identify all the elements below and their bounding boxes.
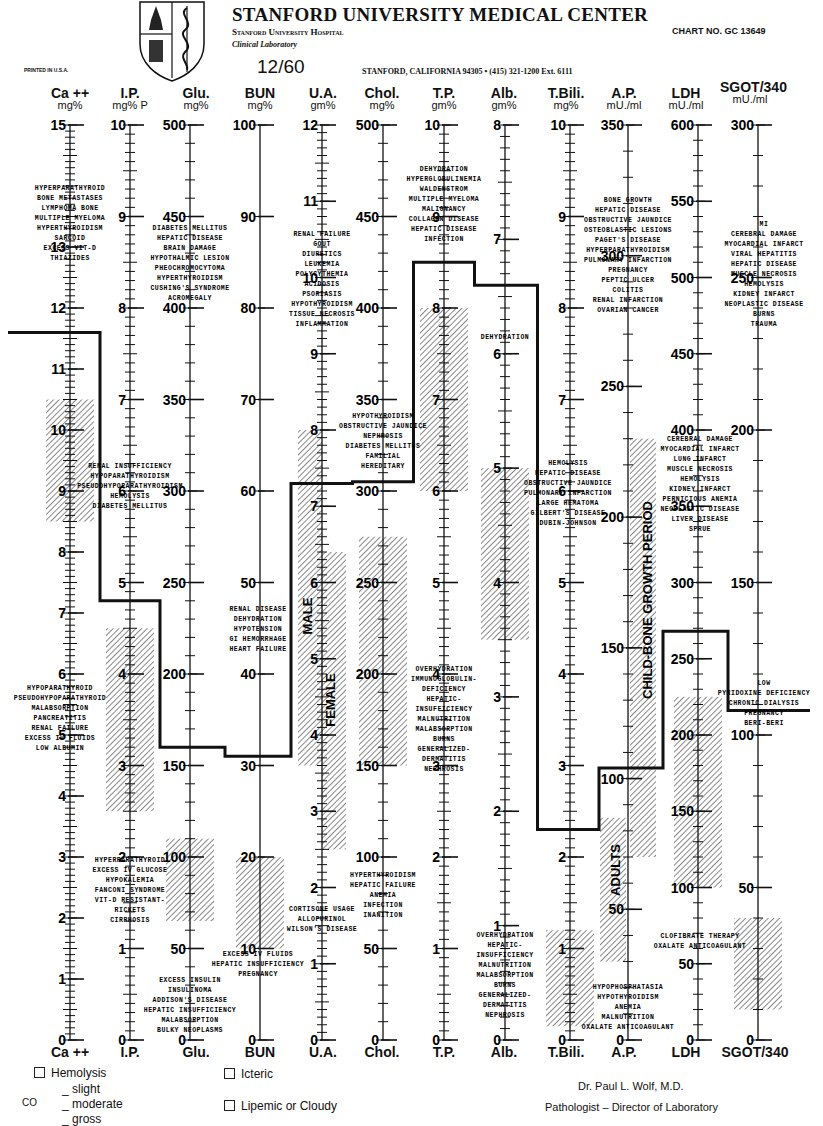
svg-text:10: 10: [424, 117, 440, 133]
svg-text:BULKY NEOPLASMS: BULKY NEOPLASMS: [157, 1027, 223, 1034]
icteric-checkbox[interactable]: Icteric: [224, 1067, 273, 1081]
svg-text:8: 8: [493, 117, 501, 133]
svg-text:BERI-BERI: BERI-BERI: [744, 720, 784, 727]
svg-text:450: 450: [356, 209, 380, 225]
svg-text:HYPERTHYROIDISM: HYPERTHYROIDISM: [157, 275, 223, 282]
checkbox-icon: [224, 1068, 235, 1079]
svg-text:8: 8: [118, 300, 126, 316]
svg-text:MALNUTRITION: MALNUTRITION: [479, 962, 532, 969]
male-label: MALE: [300, 597, 315, 634]
svg-text:FAMILIAL: FAMILIAL: [365, 453, 400, 460]
svg-text:150: 150: [601, 640, 625, 656]
lipemic-checkbox[interactable]: Lipemic or Cloudy: [224, 1099, 337, 1113]
footer-label-tp: T.P.: [414, 1045, 474, 1059]
svg-text:80: 80: [240, 300, 256, 316]
svg-text:1: 1: [432, 941, 440, 957]
svg-text:7: 7: [118, 392, 126, 408]
svg-text:LUNG INFARCT: LUNG INFARCT: [674, 456, 727, 463]
hemolysis-slight: _ slight: [62, 1082, 100, 1096]
svg-text:BONE GROWTH: BONE GROWTH: [604, 197, 652, 204]
svg-text:7: 7: [432, 392, 440, 408]
svg-text:RENAL FAILURE: RENAL FAILURE: [31, 725, 88, 732]
svg-text:50: 50: [678, 956, 694, 972]
svg-text:5: 5: [558, 575, 566, 591]
svg-text:COLLAGEN DISEASE: COLLAGEN DISEASE: [409, 216, 479, 223]
svg-text:200: 200: [731, 422, 755, 438]
svg-text:200: 200: [163, 666, 187, 682]
footer-label-chol: Chol.: [352, 1045, 412, 1059]
footer-label-ldh: LDH: [656, 1045, 716, 1059]
svg-text:3: 3: [493, 689, 501, 705]
svg-text:MI: MI: [760, 221, 769, 228]
svg-text:500: 500: [356, 117, 380, 133]
svg-text:HEREDITARY: HEREDITARY: [361, 463, 405, 470]
svg-text:150: 150: [356, 758, 380, 774]
svg-text:HEMOLYSIS: HEMOLYSIS: [110, 493, 150, 500]
svg-text:EXCESS IV GLUCOSE: EXCESS IV GLUCOSE: [93, 867, 168, 874]
svg-text:OVARIAN CANCER: OVARIAN CANCER: [597, 307, 659, 314]
hemolysis-moderate: _ moderate: [62, 1097, 123, 1111]
signature-title: Pathologist – Director of Laboratory: [545, 1101, 718, 1113]
svg-text:2: 2: [310, 880, 318, 896]
svg-text:WALDENSTROM: WALDENSTROM: [420, 186, 468, 193]
svg-text:HEPATIC DISEASE: HEPATIC DISEASE: [157, 235, 223, 242]
svg-text:DEHYDRATION: DEHYDRATION: [234, 616, 282, 623]
svg-text:400: 400: [356, 300, 380, 316]
svg-text:8: 8: [432, 300, 440, 316]
svg-text:HYPERPARATHYROIDISM: HYPERPARATHYROIDISM: [586, 247, 670, 254]
female-label: FEMALE: [323, 673, 338, 727]
svg-text:GI HEMORRHAGE: GI HEMORRHAGE: [229, 636, 286, 643]
svg-text:HYPOPHOSPHATASIA: HYPOPHOSPHATASIA: [593, 984, 663, 991]
svg-text:OBSTRUCTIVE JAUNDICE: OBSTRUCTIVE JAUNDICE: [524, 480, 612, 487]
svg-text:ACIDOSIS: ACIDOSIS: [304, 281, 339, 288]
svg-text:9: 9: [118, 209, 126, 225]
svg-text:GOUT: GOUT: [313, 241, 331, 248]
svg-text:BONE METASTASES: BONE METASTASES: [37, 195, 103, 202]
svg-text:MYOCARDIAL INFARCT: MYOCARDIAL INFARCT: [660, 446, 739, 453]
svg-text:DIABETES MELLITUS: DIABETES MELLITUS: [346, 443, 421, 450]
svg-text:HYPOTHALMIC LESION: HYPOTHALMIC LESION: [150, 255, 229, 262]
footer-label-bun: BUN: [230, 1045, 290, 1059]
svg-text:HYPOTHYROIDISM: HYPOTHYROIDISM: [597, 994, 659, 1001]
svg-text:MYOCARDIAL INFARCT: MYOCARDIAL INFARCT: [724, 241, 803, 248]
svg-text:3: 3: [118, 758, 126, 774]
hemolysis-checkbox[interactable]: Hemolysis: [34, 1066, 106, 1080]
svg-text:EXCESS VIT-D: EXCESS VIT-D: [44, 245, 97, 252]
svg-text:DEFICIENCY: DEFICIENCY: [422, 686, 466, 693]
svg-text:ACROMEGALY: ACROMEGALY: [168, 295, 212, 302]
svg-text:COLITIS: COLITIS: [613, 287, 644, 294]
svg-text:TISSUE NECROSIS: TISSUE NECROSIS: [289, 311, 355, 318]
svg-text:MALABSORPTION: MALABSORPTION: [161, 1017, 218, 1024]
svg-text:HYPERTHYROIDISM: HYPERTHYROIDISM: [350, 872, 416, 879]
svg-text:150: 150: [163, 758, 187, 774]
svg-text:15: 15: [50, 117, 66, 133]
svg-text:PAGET'S DISEASE: PAGET'S DISEASE: [595, 237, 661, 244]
svg-text:12: 12: [302, 117, 318, 133]
svg-text:LEUKEMIA: LEUKEMIA: [304, 261, 339, 268]
svg-text:DEHYDRATION: DEHYDRATION: [481, 334, 529, 341]
svg-text:HEPATIC INSUFFICIENCY: HEPATIC INSUFFICIENCY: [144, 1007, 236, 1014]
svg-text:11: 11: [51, 361, 66, 377]
svg-text:500: 500: [671, 270, 695, 286]
svg-text:HYPOPARATHYROID: HYPOPARATHYROID: [27, 685, 93, 692]
svg-text:INFECTION: INFECTION: [424, 236, 464, 243]
svg-text:500: 500: [163, 117, 187, 133]
svg-text:100: 100: [163, 849, 187, 865]
svg-text:150: 150: [671, 803, 695, 819]
svg-text:HEPATIC DISEASE: HEPATIC DISEASE: [731, 261, 797, 268]
svg-text:CLOFIBRATE THERAPY: CLOFIBRATE THERAPY: [660, 933, 739, 940]
svg-text:6: 6: [493, 346, 501, 362]
svg-text:350: 350: [356, 392, 380, 408]
svg-text:PERNICIOUS ANEMIA: PERNICIOUS ANEMIA: [663, 496, 738, 503]
svg-text:1: 1: [58, 971, 66, 987]
svg-text:350: 350: [163, 392, 187, 408]
svg-text:BURNS: BURNS: [753, 311, 775, 318]
svg-text:NEOPLASTIC DISEASE: NEOPLASTIC DISEASE: [660, 506, 739, 513]
svg-text:CEREBRAL DAMAGE: CEREBRAL DAMAGE: [667, 436, 733, 443]
svg-text:LARGE HEMATOMA: LARGE HEMATOMA: [537, 500, 599, 507]
svg-text:GENERALIZED-: GENERALIZED-: [418, 746, 471, 753]
footer-label-ip: I.P.: [100, 1045, 160, 1059]
svg-text:INANITION: INANITION: [363, 912, 403, 919]
svg-text:VIRAL HEPATITIS: VIRAL HEPATITIS: [731, 251, 797, 258]
